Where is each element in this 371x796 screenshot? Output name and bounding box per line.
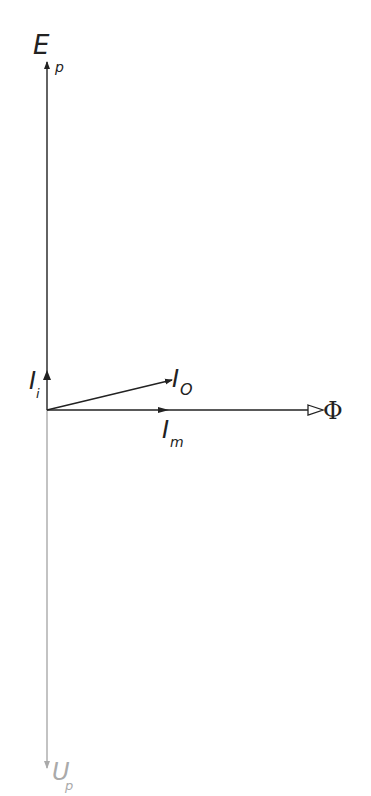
phasor-diagram: E p I i I O I m Φ U p	[0, 0, 371, 796]
vector-Io	[47, 380, 172, 410]
label-Im-sub: m	[170, 434, 184, 450]
label-Phi: Φ	[323, 397, 343, 425]
label-Ep-sub: p	[54, 59, 64, 75]
label-Ii-sub: i	[36, 386, 40, 401]
vector-Ii	[43, 370, 51, 380]
label-Io: I	[172, 365, 179, 393]
label-Io-sub: O	[180, 380, 193, 399]
label-Ep: E	[33, 30, 50, 60]
label-Im: I	[162, 416, 169, 444]
vector-Phi	[47, 405, 323, 415]
label-Up-sub: p	[64, 778, 73, 793]
vector-Im	[158, 407, 169, 413]
